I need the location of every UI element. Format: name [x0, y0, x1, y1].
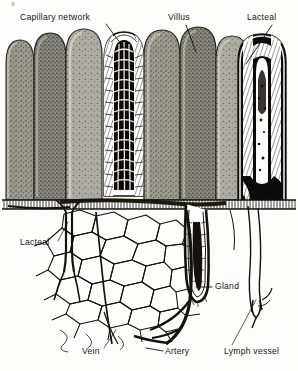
label-vein: Vein: [82, 346, 100, 356]
label-artery: Artery: [165, 346, 190, 356]
label-gland: Gland: [215, 281, 239, 291]
label-villus: Villus: [168, 12, 190, 22]
villus: [180, 27, 216, 200]
villus: [34, 33, 66, 200]
scan-artifact: [11, 2, 15, 6]
villus-row: [6, 27, 286, 206]
villi-diagram: Capillary network Villus Lacteal Lacteal…: [0, 0, 298, 371]
anatomy-figure: Capillary network Villus Lacteal Lacteal…: [0, 0, 298, 371]
label-lacteal-top: Lacteal: [247, 12, 276, 22]
villus: [144, 30, 180, 200]
mucosa-base: [2, 200, 296, 209]
label-lymph-vessel: Lymph vessel: [224, 346, 279, 356]
label-capillary-network: Capillary network: [20, 12, 91, 22]
label-lacteal-left: Lacteal: [20, 237, 49, 247]
villus: [66, 29, 102, 200]
villus-cutaway-lacteal: [238, 34, 286, 206]
villus: [6, 40, 34, 200]
villus-cutaway-capillary: [104, 30, 144, 200]
